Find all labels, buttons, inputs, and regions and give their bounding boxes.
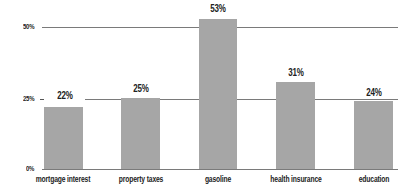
tick-25	[40, 99, 44, 100]
bar-health-insurance	[276, 82, 315, 169]
xlabel-mortgage-interest: mortgage interest	[29, 174, 97, 184]
value-label-education: 24%	[358, 87, 390, 98]
ytick-label-50: 50%	[23, 22, 34, 31]
xlabel-property-taxes: property taxes	[107, 174, 175, 184]
xlabel-health-insurance: health insurance	[262, 174, 330, 184]
xlabel-gasoline: gasoline	[184, 174, 252, 184]
baseline-0	[42, 169, 398, 170]
bar-property-taxes	[121, 98, 160, 169]
bar-education	[354, 101, 393, 169]
value-label-gasoline: 53%	[202, 3, 234, 14]
value-label-property-taxes: 25%	[125, 83, 157, 94]
value-label-health-insurance: 31%	[280, 67, 312, 78]
xlabel-education: education	[340, 174, 408, 184]
ytick-label-0: 0%	[26, 164, 34, 173]
value-label-mortgage-interest: 22%	[49, 90, 81, 101]
bar-gasoline	[199, 19, 237, 169]
bar-chart: 50% 25% 0% 22% 25% 53% 31% 24% mortgage …	[0, 0, 419, 195]
bar-mortgage-interest	[44, 107, 83, 169]
ytick-label-25: 25%	[23, 94, 34, 103]
